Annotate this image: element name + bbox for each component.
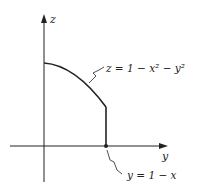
surface-curve — [44, 63, 106, 107]
boundary-equation-label: y = 1 − x — [126, 169, 177, 181]
surface-leader-line — [89, 67, 104, 83]
diagram-canvas: z y z = 1 − x² − y² y = 1 − x — [0, 0, 201, 189]
z-axis-arrowhead — [41, 14, 47, 23]
y-axis-label: y — [161, 150, 169, 163]
surface-equation-label: z = 1 − x² − y² — [105, 62, 185, 74]
z-axis-label: z — [49, 13, 56, 26]
y-axis-arrowhead — [159, 143, 168, 149]
boundary-point — [104, 144, 108, 148]
boundary-leader-line — [107, 150, 122, 174]
